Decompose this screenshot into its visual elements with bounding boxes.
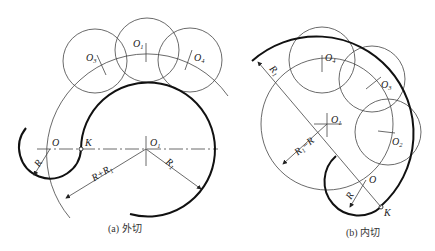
label-o3: O3: [86, 52, 97, 64]
o4-tick: [185, 50, 192, 70]
caption-a: (a) 外切: [108, 223, 142, 235]
construction-circle-o1-top: [115, 18, 179, 82]
arc-r1-thick: [81, 82, 215, 216]
label-k: K: [84, 137, 93, 148]
figure-b-internal-tangent: R1 O4 O3 O2 O1 R1−R O R K (b) 内切: [252, 27, 421, 239]
label-o3: O3: [381, 79, 392, 91]
dim-r1: [146, 149, 201, 189]
label-o4: O4: [325, 52, 336, 64]
label-r1-minus-r: R1−R: [291, 135, 317, 159]
construction-circle-o4: [158, 28, 222, 92]
o3-tick: [97, 55, 106, 75]
label-r: R: [31, 158, 44, 170]
label-o: O: [369, 174, 376, 185]
arc-r-thick: [324, 156, 381, 216]
tangent-point-k: [79, 147, 83, 151]
label-o1: O1: [150, 137, 160, 149]
arc-r-thick: [19, 128, 81, 179]
label-r-plus-r1: R+R1: [89, 162, 115, 184]
label-o: O: [52, 137, 59, 148]
label-o2: O2: [392, 136, 403, 148]
figure-a-external-tangent: O K O1 O3 O1 O4 R R+R1 R1 (a) 外切: [19, 18, 228, 235]
tangent-arcs-diagram: O K O1 O3 O1 O4 R R+R1 R1 (a) 外切 R: [0, 0, 435, 251]
label-k: K: [383, 207, 392, 218]
label-o1: O1: [331, 114, 341, 126]
caption-b: (b) 内切: [346, 226, 380, 239]
label-o4: O4: [194, 52, 205, 64]
label-r1: R1: [162, 155, 177, 171]
label-r1: R1: [266, 62, 282, 78]
label-o1-top: O1: [133, 38, 143, 50]
dim-r: [350, 180, 366, 207]
